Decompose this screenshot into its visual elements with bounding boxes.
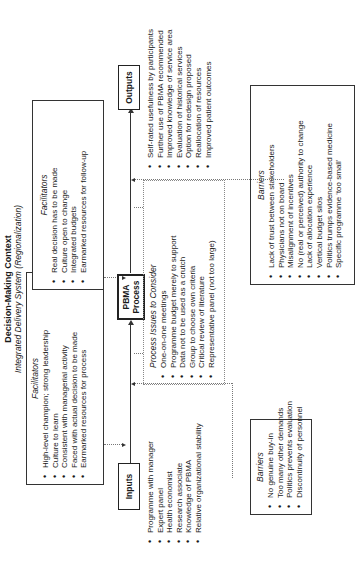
- arrow-down-icon: [122, 277, 126, 281]
- inputs-node: Inputs: [118, 463, 140, 510]
- list-item: Misalignment of incentives: [286, 90, 296, 280]
- list-item: Group to choose own criteria: [188, 185, 198, 380]
- list-item: Option for redesign proposed: [184, 29, 194, 170]
- outputs-list: Self-rated usefulness by participants Fu…: [146, 29, 213, 170]
- list-item: Faced with actual decision to be made: [70, 277, 80, 480]
- pbma-process-line2: Process: [131, 280, 141, 313]
- facilitators-right-box: Facilitators Real decision has to be mad…: [32, 100, 104, 290]
- facilitators-left-list: High-level champion; strong leadership C…: [41, 277, 89, 480]
- process-issues-heading: Process Issues to Consider: [148, 185, 158, 380]
- barriers-left-box: Barriers No genuine buy-in Too many othe…: [250, 419, 312, 515]
- list-item: Lack of allocation experience: [305, 90, 315, 280]
- list-item: Programme with manager: [146, 423, 156, 545]
- list-item: Discontinuity of personnel: [295, 424, 305, 510]
- list-item: Specific programme 'too small': [334, 90, 344, 280]
- process-issues-box: Process Issues to Consider One-on-one me…: [143, 180, 225, 385]
- list-item: Culture open to change: [60, 105, 70, 285]
- list-item: Earmarked resources for follow-up: [79, 105, 89, 285]
- flow-line-process-outputs: [130, 111, 131, 273]
- list-item: Expert panel: [156, 423, 166, 545]
- connector-process-issues-right: [134, 207, 143, 208]
- list-item: Self-rated usefulness by participants: [146, 29, 156, 170]
- inputs-list: Programme with manager Expert panel Heal…: [146, 423, 204, 545]
- pbma-process-line1: PBMA: [121, 284, 131, 309]
- list-item: Culture to learn: [51, 277, 61, 480]
- context-subtitle: Integrated Delivery System (Regionalizat…: [13, 169, 23, 409]
- arrow-right-icon: [128, 320, 134, 325]
- list-item: Representative panel (not too large): [207, 185, 217, 380]
- facilitators-right-list: Real decision has to be made Culture ope…: [50, 105, 88, 285]
- facilitators-left-box: Facilitators High-level champion; strong…: [26, 272, 104, 485]
- list-item: Relative organizational stability: [194, 423, 204, 545]
- barriers-right-box: Barriers Lack of trust between stakehold…: [250, 85, 355, 285]
- list-item: Vertical budget silos: [315, 90, 325, 280]
- pbma-process-node: PBMA Process: [117, 274, 145, 320]
- connector-barriers-right-v: [134, 179, 284, 180]
- list-item: Further use of PBMA recommended: [156, 29, 166, 170]
- list-item: Evaluation of historical services: [175, 29, 185, 170]
- outputs-node: Outputs: [118, 65, 140, 110]
- list-item: Consistent with managerial activity: [60, 277, 70, 480]
- facilitators-left-heading: Facilitators: [30, 277, 40, 480]
- connector-facilitators-left: [104, 444, 122, 445]
- arrow-up-icon: [131, 383, 135, 387]
- list-item: Critical review of literature: [197, 185, 207, 380]
- list-item: Knowledge of PBMA: [184, 423, 194, 545]
- list-item: No genuine buy-in: [266, 424, 276, 510]
- list-item: Improved knowledge of service area: [165, 29, 175, 170]
- list-item: Physicians not on board: [277, 90, 287, 280]
- list-item: Integrated budgets: [69, 105, 79, 285]
- list-item: Earmarked resources for process: [79, 277, 89, 480]
- flow-line-inputs-process: [130, 324, 131, 486]
- list-item: Programme budget merely to support: [169, 185, 179, 380]
- process-issues-list: One-on-one meetings Programme budget mer…: [159, 185, 217, 380]
- list-item: High-level champion; strong leadership: [41, 277, 51, 480]
- connector-barriers-left-v: [134, 383, 232, 384]
- facilitators-right-heading: Facilitators: [39, 105, 49, 285]
- list-item: Politics trumps evidence-based medicine: [325, 90, 335, 280]
- list-item: No (real or perceived) authority to chan…: [296, 90, 306, 280]
- barriers-right-list: Lack of trust between stakeholders Physi…: [267, 90, 344, 280]
- list-item: Politics prevents evaluation: [285, 424, 295, 510]
- connector-process-issues-left: [134, 353, 143, 354]
- arrow-down-icon: [122, 444, 126, 448]
- pbma-diagram: Decision-Making Context Integrated Deliv…: [0, 0, 357, 578]
- barriers-left-list: No genuine buy-in Too many other demands…: [266, 424, 304, 510]
- list-item: Too many other demands: [276, 424, 286, 510]
- list-item: Real decision has to be made: [50, 105, 60, 285]
- barriers-left-heading: Barriers: [255, 424, 265, 510]
- context-title: Decision-Making Context: [3, 189, 13, 389]
- list-item: Lack of trust between stakeholders: [267, 90, 277, 280]
- list-item: Data not to be used as a crutch: [178, 185, 188, 380]
- connector-barriers-left-h: [232, 383, 233, 478]
- list-item: Health economist: [165, 423, 175, 545]
- list-item: One-on-one meetings: [159, 185, 169, 380]
- arrow-up-icon: [131, 179, 135, 183]
- list-item: Improved patient outcomes: [204, 29, 214, 170]
- list-item: Research associate: [175, 423, 185, 545]
- barriers-right-heading: Barriers: [256, 90, 266, 280]
- list-item: Reallocation of resources: [194, 29, 204, 170]
